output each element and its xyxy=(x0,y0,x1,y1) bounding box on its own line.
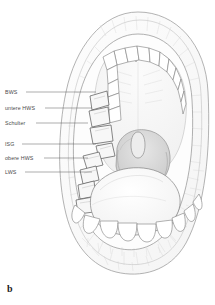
label-obere-hws: obere HWS xyxy=(5,155,33,161)
figure-caption-letter: b xyxy=(7,283,13,295)
oral-cavity-illustration xyxy=(0,0,215,305)
label-bws: BWS xyxy=(5,89,17,95)
label-lws: LWS xyxy=(5,169,16,175)
label-schulter: Schulter xyxy=(5,120,25,126)
label-untere-hws: untere HWS xyxy=(5,105,35,111)
label-isg: ISG xyxy=(5,141,15,147)
uvula xyxy=(131,132,145,158)
figure-container: BWS untere HWS Schulter ISG obere HWS LW… xyxy=(0,0,215,305)
